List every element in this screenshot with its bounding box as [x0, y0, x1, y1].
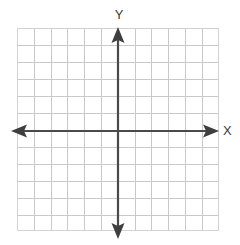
x-axis-label: X [223, 124, 237, 137]
y-axis-label: Y [112, 8, 126, 21]
coordinate-plane-figure: Y X [0, 0, 240, 245]
coordinate-grid-svg [0, 0, 240, 245]
